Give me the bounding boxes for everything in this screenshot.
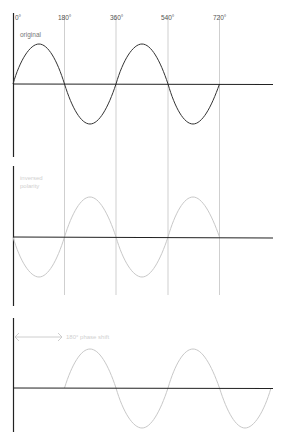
- x-axis: [13, 237, 273, 238]
- label-inversed-line1: inversed: [20, 175, 43, 181]
- tick-0: 0°: [15, 14, 22, 21]
- x-axis: [13, 84, 273, 85]
- tick-540: 540°: [161, 14, 175, 21]
- panel-original: original: [13, 13, 273, 157]
- label-original: original: [20, 31, 42, 39]
- panel-shifted: 180° phase shift: [13, 318, 273, 432]
- panel-inversed: inversed polarity: [13, 166, 273, 306]
- gridlines: [65, 15, 220, 295]
- tick-180: 180°: [58, 14, 72, 21]
- tick-720: 720°: [213, 14, 227, 21]
- phase-shift-arrow-icon: [15, 333, 62, 341]
- tick-360: 360°: [110, 14, 124, 21]
- waveform-diagram: 0° 180° 360° 540° 720° original inversed…: [0, 0, 285, 444]
- x-tick-labels: 0° 180° 360° 540° 720°: [15, 14, 227, 21]
- label-phase-shift: 180° phase shift: [66, 334, 109, 340]
- x-axis: [13, 388, 273, 389]
- label-inversed-line2: polarity: [20, 183, 39, 189]
